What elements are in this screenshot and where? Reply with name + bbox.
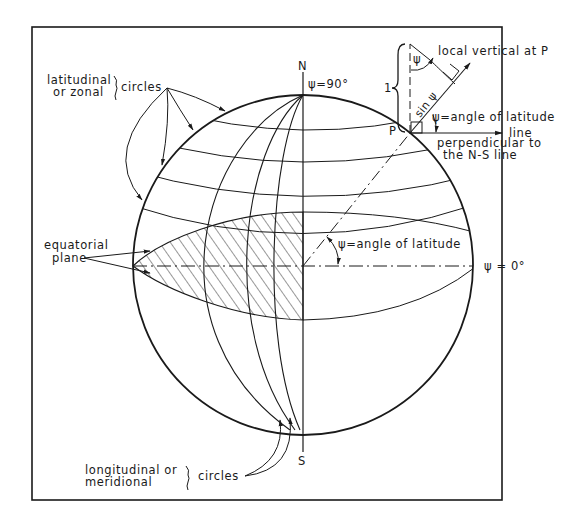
local-vertical-label: local vertical at P — [438, 44, 549, 58]
unit-length-label: 1 — [384, 81, 392, 95]
equator-latitude: ψ = 0° — [484, 259, 525, 273]
unit-brace — [392, 44, 405, 132]
longitudinal-brace — [186, 466, 189, 490]
inset-angle-label: ψ=angle of latitude — [432, 110, 555, 124]
latitudinal-circles-label: circles — [121, 80, 162, 94]
right-angle-marker-vertical — [443, 64, 459, 80]
longitudinal-circles-label: circles — [198, 469, 239, 483]
latitudinal-label-2: or zonal — [53, 85, 104, 99]
perp-label-3: the N-S line — [443, 148, 517, 162]
projection-line-2 — [430, 60, 455, 84]
longitudinal-label-2: meridional — [85, 475, 152, 489]
center-angle-label: ψ=angle of latitude — [338, 237, 461, 251]
latitude-diagram: ψ=angle of latitude N S ψ=90° ψ = 0° P ψ… — [0, 0, 588, 525]
north-label: N — [298, 59, 307, 73]
south-label: S — [298, 454, 306, 468]
center-angle-arc — [327, 237, 338, 264]
inset-psi-top: ψ — [413, 52, 421, 66]
point-p-label: P — [389, 124, 397, 138]
north-pole-latitude: ψ=90° — [308, 77, 349, 91]
equatorial-label-1: equatorial — [44, 238, 108, 252]
right-angle-marker-p — [411, 122, 422, 133]
latitudinal-arrows — [126, 88, 225, 200]
equatorial-label-2: plane — [52, 251, 87, 265]
latitudinal-brace — [114, 76, 117, 100]
